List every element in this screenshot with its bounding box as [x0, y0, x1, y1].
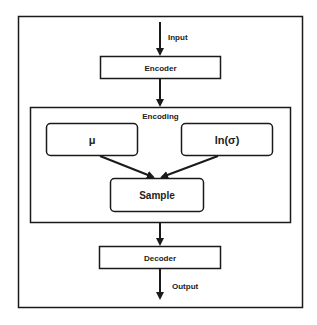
- log-sigma-to-sample-arrow: [162, 156, 218, 177]
- vae-diagram: Input Encoder Encoding μ ln(σ) Sample De…: [0, 0, 317, 325]
- sample-label: Sample: [139, 190, 175, 201]
- encoding-label: Encoding: [142, 112, 179, 121]
- mu-to-sample-arrow: [100, 156, 153, 177]
- output-label: Output: [172, 282, 199, 291]
- log-sigma-label: ln(σ): [215, 134, 240, 146]
- decoder-label: Decoder: [144, 254, 176, 263]
- input-label: Input: [168, 33, 188, 42]
- encoder-label: Encoder: [144, 64, 176, 73]
- mu-label: μ: [89, 134, 96, 146]
